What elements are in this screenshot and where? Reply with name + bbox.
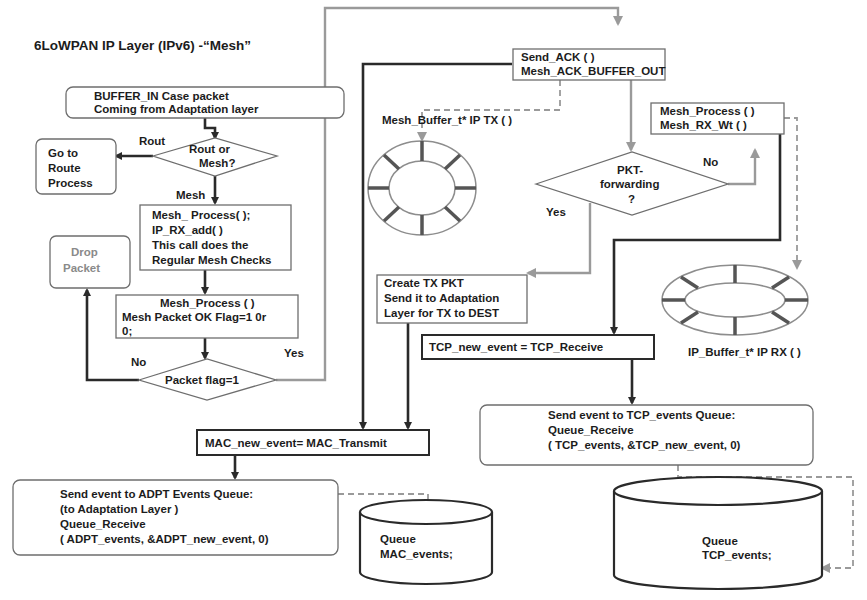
svg-text:Mesh_RX_Wt ( ): Mesh_RX_Wt ( ) <box>660 119 747 131</box>
buffer-in-box: BUFFER_IN Case packet Coming from Adapta… <box>66 87 344 118</box>
svg-text:MAC_events;: MAC_events; <box>380 548 453 560</box>
svg-text:Regular Mesh Checks: Regular Mesh Checks <box>152 254 272 266</box>
drop-packet-box: Drop Packet <box>50 236 130 288</box>
yes-label-left: Yes <box>284 347 304 359</box>
send-adpt-events-box: Send event to ADPT Events Queue: (to Ada… <box>13 480 338 555</box>
no-label-left: No <box>131 356 146 368</box>
svg-text:forwarding: forwarding <box>600 178 659 190</box>
ip-buffer-rx-label: IP_Buffer_t* IP RX ( ) <box>688 346 801 358</box>
svg-text:This call does the: This call does the <box>152 239 249 251</box>
svg-text:Send event to TCP_events Queue: Send event to TCP_events Queue: <box>548 409 735 421</box>
svg-text:Packet: Packet <box>63 262 100 274</box>
svg-text:?: ? <box>628 193 635 205</box>
yes-label-mid: Yes <box>546 206 566 218</box>
go-to-route-process-box: Go to Route Process <box>36 139 116 194</box>
svg-text:Send_ACK ( ): Send_ACK ( ) <box>521 51 595 63</box>
tcp-new-event-box: TCP_new_event = TCP_Receive <box>422 335 654 359</box>
svg-text:Mesh?: Mesh? <box>199 157 235 169</box>
send-ack-box: Send_ACK ( ) Mesh_ACK_BUFFER_OUT <box>513 49 665 80</box>
queue-tcp-events-cylinder: Queue TCP_events; <box>614 477 822 589</box>
svg-text:Mesh_Process ( ): Mesh_Process ( ) <box>660 105 755 117</box>
svg-text:Mesh_Process ( ): Mesh_Process ( ) <box>160 297 255 309</box>
svg-text:PKT-: PKT- <box>617 164 643 176</box>
mesh-label: Mesh <box>176 189 205 201</box>
ring-buffer-rx <box>662 265 808 335</box>
mesh-buffer-tx-label: Mesh_Buffer_t* IP TX ( ) <box>382 114 512 126</box>
mesh-packet-ok-flag-box: Mesh_Process ( ) Mesh Packet OK Flag=1 0… <box>116 295 298 338</box>
svg-text:TCP_new_event = TCP_Receive: TCP_new_event = TCP_Receive <box>429 341 603 353</box>
svg-text:( TCP_events, &TCP_new_event,: ( TCP_events, &TCP_new_event, 0) <box>548 439 741 451</box>
create-tx-pkt-box: Create TX PKT Send it to Adaptation Laye… <box>377 275 527 323</box>
rout-or-mesh-decision: Rout or Mesh? <box>153 138 277 176</box>
svg-text:IP_RX_add( ): IP_RX_add( ) <box>152 224 223 236</box>
svg-text:Send it to Adaptation: Send it to Adaptation <box>384 292 499 304</box>
svg-text:Send event to ADPT Events Queu: Send event to ADPT Events Queue: <box>60 488 253 500</box>
packet-flag-decision: Packet flag=1 <box>139 359 276 400</box>
mesh-flowchart: 6LoWPAN IP Layer (IPv6) -“Mesh” <box>0 0 867 600</box>
svg-text:Go to: Go to <box>48 147 78 159</box>
svg-text:BUFFER_IN Case packet: BUFFER_IN Case packet <box>94 90 229 102</box>
diagram-title: 6LoWPAN IP Layer (IPv6) -“Mesh” <box>34 38 251 53</box>
svg-text:Layer for TX to DEST: Layer for TX to DEST <box>384 307 499 319</box>
send-tcp-events-box: Send event to TCP_events Queue: Queue_Re… <box>480 405 813 465</box>
mesh-process-rx-box: Mesh_Process ( ) Mesh_RX_Wt ( ) <box>651 103 784 134</box>
svg-text:Create TX PKT: Create TX PKT <box>384 277 464 289</box>
rout-label: Rout <box>139 135 165 147</box>
svg-text:( ADPT_events, &ADPT_new_even: ( ADPT_events, &ADPT_new_event, 0) <box>60 533 269 545</box>
svg-text:Queue: Queue <box>380 533 416 545</box>
svg-text:Route: Route <box>48 162 81 174</box>
svg-text:Packet flag=1: Packet flag=1 <box>165 374 239 386</box>
svg-text:Mesh_ Process( );: Mesh_ Process( ); <box>152 209 250 221</box>
svg-text:Queue: Queue <box>702 535 738 547</box>
no-label-right: No <box>703 156 718 168</box>
svg-text:Coming from Adaptation layer: Coming from Adaptation layer <box>94 103 259 115</box>
svg-text:Mesh_ACK_BUFFER_OUT: Mesh_ACK_BUFFER_OUT <box>521 65 665 77</box>
svg-text:0;: 0; <box>122 325 132 337</box>
svg-text:(to Adaptation Layer ): (to Adaptation Layer ) <box>60 503 179 515</box>
svg-text:Queue_Receive: Queue_Receive <box>548 424 634 436</box>
svg-text:TCP_events;: TCP_events; <box>702 549 772 561</box>
svg-text:Mesh Packet OK Flag=1 0r: Mesh Packet OK Flag=1 0r <box>122 311 267 323</box>
mac-new-event-box: MAC_new_event= MAC_Transmit <box>197 430 429 455</box>
svg-text:Rout or: Rout or <box>189 143 230 155</box>
queue-mac-events-cylinder: Queue MAC_events; <box>360 500 492 584</box>
svg-text:Process: Process <box>48 177 93 189</box>
mesh-process-checks-box: Mesh_ Process( ); IP_RX_add( ) This call… <box>140 205 291 270</box>
svg-text:Drop: Drop <box>71 246 98 258</box>
svg-text:MAC_new_event= MAC_Transmit: MAC_new_event= MAC_Transmit <box>205 437 387 449</box>
ring-buffer-tx <box>368 141 476 235</box>
svg-text:Queue_Receive: Queue_Receive <box>60 518 146 530</box>
